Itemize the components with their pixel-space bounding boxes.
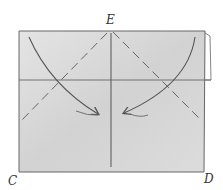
paper-sheet: [19, 31, 205, 172]
fold-illustration: [0, 0, 223, 190]
label-d: D: [204, 172, 214, 186]
origami-diagram: E C D: [0, 0, 223, 190]
paper-flap-edge: [205, 33, 211, 80]
label-c: C: [8, 174, 17, 188]
label-e: E: [106, 13, 115, 27]
